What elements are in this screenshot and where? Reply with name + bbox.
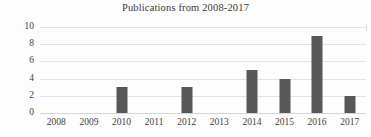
y-tick-label-4: 4: [8, 74, 34, 84]
x-tick-label-2012: 2012: [170, 117, 204, 128]
y-tick-label-10: 10: [8, 22, 34, 32]
bar-2014: [246, 70, 257, 113]
gridline-y-0: [40, 113, 366, 114]
bar-2010: [116, 87, 127, 113]
x-tick-label-2011: 2011: [137, 117, 171, 128]
y-tick-label-6: 6: [8, 57, 34, 67]
bar-2016: [312, 36, 323, 113]
bar-2012: [181, 87, 192, 113]
x-axis-tick-labels: 2008200920102011201220132014201520162017: [40, 117, 366, 133]
x-tick-label-2016: 2016: [300, 117, 334, 128]
x-tick-label-2017: 2017: [333, 117, 367, 128]
y-tick-label-2: 2: [8, 91, 34, 101]
bar-chart-figure: Publications from 2008-2017 0246810 2008…: [0, 0, 371, 137]
y-tick-label-0: 0: [8, 108, 34, 118]
x-tick-label-2014: 2014: [235, 117, 269, 128]
chart-title: Publications from 2008-2017: [0, 2, 371, 13]
x-tick-label-2009: 2009: [72, 117, 106, 128]
bar-2015: [279, 79, 290, 113]
x-tick-label-2013: 2013: [202, 117, 236, 128]
x-tick-label-2010: 2010: [105, 117, 139, 128]
x-tick-label-2008: 2008: [39, 117, 73, 128]
y-tick-label-8: 8: [8, 39, 34, 49]
bar-series: [40, 27, 366, 113]
x-tick-label-2015: 2015: [268, 117, 302, 128]
top-right-tick-mark: [366, 24, 367, 31]
bar-2017: [344, 96, 355, 113]
